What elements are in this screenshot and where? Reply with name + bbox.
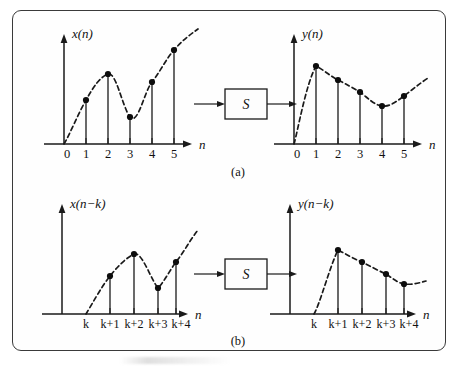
x-axis-arrowhead [413, 141, 422, 148]
panel-b: x(n−k) n k k+1 k+2 k+3 [12, 182, 446, 351]
system-label: S [243, 97, 250, 112]
signal-label: x(n) [71, 26, 93, 41]
sample-dot [155, 285, 161, 291]
panel-a: x(n) n [12, 10, 446, 180]
sample-dot [131, 251, 137, 257]
sample-dot [401, 281, 407, 287]
x-axis-label: n [195, 307, 202, 322]
envelope-curve [294, 66, 428, 144]
y-axis-arrowhead [59, 204, 66, 213]
tick-label: 3 [127, 147, 133, 161]
tick-label: k+1 [101, 317, 120, 331]
plot-xn: x(n) n [34, 22, 214, 157]
tick-label: 3 [357, 147, 363, 161]
input-arrowhead [217, 101, 225, 107]
sample-dot [83, 97, 89, 103]
tick-label: k+4 [172, 317, 191, 331]
envelope-curve [314, 250, 426, 314]
tick-label: k [311, 317, 317, 331]
sample-dot [383, 271, 389, 277]
plot-xn-svg: x(n) n [34, 22, 214, 157]
sample-dot [335, 77, 341, 83]
tick-label: k+3 [377, 317, 396, 331]
tick-label: 5 [171, 147, 177, 161]
input-arrowhead [217, 271, 225, 277]
sample-dot [335, 247, 341, 253]
tick-label: k [83, 317, 89, 331]
tick-label: 4 [379, 147, 386, 161]
tick-label: k+2 [125, 317, 144, 331]
tick-label: k+3 [149, 317, 168, 331]
panel-caption-a: (a) [218, 165, 258, 180]
tick-label: 2 [335, 147, 341, 161]
envelope-curve [64, 29, 198, 144]
scan-artifact [120, 357, 230, 364]
x-axis-label: n [429, 137, 436, 152]
signal-label: y(n−k) [296, 196, 333, 211]
sample-dot [359, 259, 365, 265]
sample-dot [313, 63, 319, 69]
x-axis-label: n [199, 137, 206, 152]
signal-label: y(n) [300, 26, 323, 41]
y-axis-arrowhead [291, 34, 298, 43]
tick-label: 5 [401, 147, 407, 161]
tick-label: 0 [64, 147, 70, 161]
sample-dot [105, 71, 111, 77]
plot-yn: y(n) n 0 1 2 [264, 22, 444, 157]
tick-label: 1 [83, 147, 89, 161]
sample-dot [173, 259, 179, 265]
sample-dot [127, 114, 133, 120]
panel-caption-b: (b) [218, 334, 258, 349]
tick-label: 4 [149, 147, 156, 161]
system-label: S [243, 267, 250, 282]
tick-label: 2 [105, 147, 111, 161]
tick-label: k+2 [353, 317, 372, 331]
figure-root: x(n) n [0, 0, 462, 369]
tick-label: 1 [313, 147, 319, 161]
signal-label: x(n−k) [69, 196, 105, 211]
y-axis-arrowhead [61, 34, 68, 43]
tick-label: 0 [294, 147, 300, 161]
tick-label: k+1 [329, 317, 348, 331]
sample-dot [149, 79, 155, 85]
plot-yn-k-svg: y(n−k) n k k+1 k+2 k+3 k+4 [262, 192, 447, 327]
tick-label: k+4 [400, 317, 419, 331]
sample-dot [107, 273, 113, 279]
x-axis-label: n [423, 307, 430, 322]
y-axis-arrowhead [287, 204, 294, 213]
plot-yn-k: y(n−k) n k k+1 k+2 k+3 k+4 [262, 192, 447, 327]
x-axis-arrowhead [183, 141, 192, 148]
sample-dot [171, 47, 177, 53]
sample-dot [401, 93, 407, 99]
sample-dot [357, 89, 363, 95]
envelope-curve [86, 230, 198, 314]
sample-dot [379, 103, 385, 109]
plot-yn-svg: y(n) n 0 1 2 [264, 22, 444, 157]
